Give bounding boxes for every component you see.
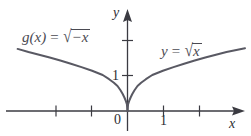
y-radical: √x xyxy=(184,43,202,59)
g-equals-sign: = xyxy=(49,29,59,45)
curve-label-y-equals-sqrt-x: y = √x xyxy=(161,43,202,59)
y-axis-tick-label-1: 1 xyxy=(112,69,119,83)
y-radicand: x xyxy=(192,43,202,59)
y-function-name: y xyxy=(161,43,168,59)
x-axis-name-label: x xyxy=(229,117,235,131)
y-equals-sign: = xyxy=(171,43,181,59)
g-radicand: −x xyxy=(71,29,91,45)
plot-canvas xyxy=(0,0,251,136)
origin-tick-label: 0 xyxy=(114,113,121,127)
g-radical: √−x xyxy=(62,29,90,45)
curve-g-sqrt-neg-x xyxy=(18,49,128,111)
graph-figure: g(x) = √−x y = √x 0 1 1 x y xyxy=(0,0,251,136)
g-function-name: g(x) xyxy=(22,29,46,45)
x-axis-tick-label-1: 1 xyxy=(160,114,167,128)
curve-label-g-of-x: g(x) = √−x xyxy=(22,29,90,45)
y-axis-name-label: y xyxy=(113,6,119,20)
